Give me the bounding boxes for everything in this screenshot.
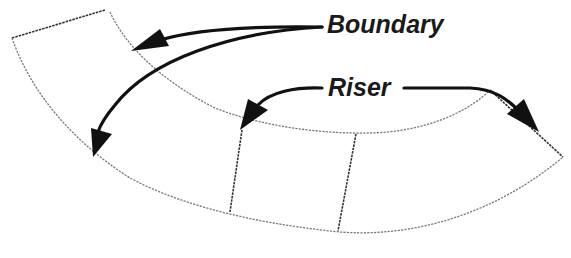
riser-left	[230, 130, 242, 212]
riser-arrow-left-head-icon	[240, 99, 268, 130]
riser-label: Riser	[328, 73, 392, 101]
boundary-label: Boundary	[327, 10, 445, 38]
boundary-arrow-outer-head-icon	[91, 128, 112, 157]
riser-arrow-left	[258, 88, 322, 105]
riser-right	[338, 134, 356, 231]
stair-outline	[12, 10, 563, 233]
curved-stair-diagram: Boundary Riser	[0, 0, 571, 258]
boundary-annotation: Boundary	[91, 10, 445, 157]
boundary-arrow-inner-head-icon	[131, 29, 169, 51]
start-edge	[12, 10, 105, 38]
riser-annotation: Riser	[240, 73, 539, 132]
boundary-arrow-outer	[98, 27, 322, 132]
